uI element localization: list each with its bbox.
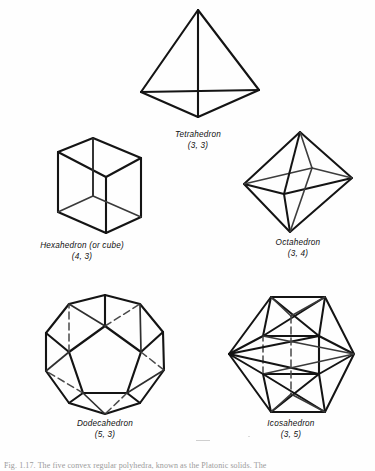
page-footnote-text: Fig. 1.17. The five convex regular polyh… — [4, 461, 375, 470]
dodecahedron-schlafli: (5, 3) — [24, 430, 186, 441]
icosahedron-schlafli: (3, 5) — [208, 430, 374, 441]
hexahedron-caption: Hexahedron (or cube) (4, 3) — [2, 241, 162, 263]
octahedron-schlafli: (3, 4) — [222, 249, 374, 260]
hexahedron-schlafli: (4, 3) — [2, 252, 162, 263]
octahedron-label: Octahedron — [276, 238, 321, 247]
scan-speck — [6, 462, 8, 464]
octahedron-wireframe-icon — [238, 128, 358, 236]
icosahedron-label: Icosahedron — [267, 419, 314, 428]
tetrahedron-wireframe-icon — [133, 6, 263, 128]
icosahedron-wireframe-icon — [223, 292, 359, 418]
cube-wireframe-icon — [15, 134, 149, 238]
octahedron-caption: Octahedron (3, 4) — [222, 238, 374, 260]
solid-icosahedron: Icosahedron (3, 5) — [208, 292, 374, 441]
dodecahedron-label: Dodecahedron — [77, 419, 133, 428]
page-footnote: Fig. 1.17. The five convex regular polyh… — [0, 461, 375, 471]
dodecahedron-caption: Dodecahedron (5, 3) — [24, 419, 186, 441]
solid-hexahedron: Hexahedron (or cube) (4, 3) — [2, 134, 162, 263]
hexahedron-label: Hexahedron (or cube) — [40, 241, 124, 250]
scan-speck — [248, 436, 250, 437]
solid-dodecahedron: Dodecahedron (5, 3) — [24, 292, 186, 441]
icosahedron-caption: Icosahedron (3, 5) — [208, 419, 374, 441]
scan-speck — [196, 440, 210, 441]
figure-page: Tetrahedron (3, 3) — [0, 0, 375, 471]
tetrahedron-label: Tetrahedron — [175, 130, 221, 139]
solid-octahedron: Octahedron (3, 4) — [222, 128, 374, 260]
dodecahedron-wireframe-icon — [40, 292, 170, 418]
